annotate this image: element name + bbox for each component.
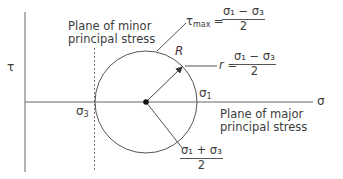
radius-fraction: σ₁ − σ₃ 2 [233, 50, 276, 78]
mohr-circle-diagram [0, 0, 343, 179]
sigma3-subscript: 3 [84, 110, 89, 119]
sigma3-symbol: σ [76, 104, 84, 118]
center-numerator: σ₁ + σ₃ [180, 144, 223, 159]
tau-max-fraction: σ₁ − σ₃ 2 [222, 5, 265, 33]
tau-max-subscript: max [193, 20, 210, 29]
center-leader-line [146, 102, 183, 149]
tau-axis-label: τ [7, 60, 14, 74]
radius-arrow [146, 67, 182, 102]
radius-marker-label: R [175, 44, 183, 58]
sigma1-subscript: 1 [207, 92, 212, 101]
sigma1-label: σ1 [199, 86, 212, 101]
tau-max-lhs: τmax = [186, 14, 224, 29]
major-plane-label-line2: principal stress [220, 121, 307, 134]
tau-max-denominator: 2 [240, 20, 247, 33]
center-denominator: 2 [198, 159, 205, 172]
sigma1-symbol: σ [199, 86, 207, 100]
radius-denominator: 2 [251, 65, 258, 78]
center-fraction: σ₁ + σ₃ 2 [180, 144, 223, 172]
center-point [143, 99, 149, 105]
tau-max-numerator: σ₁ − σ₃ [222, 5, 265, 20]
sigma-axis-label: σ [317, 94, 325, 108]
tau-max-symbol: τ [186, 14, 193, 28]
radius-numerator: σ₁ − σ₃ [233, 50, 276, 65]
sigma3-label: σ3 [76, 104, 89, 119]
minor-plane-label-line2: principal stress [68, 33, 155, 46]
